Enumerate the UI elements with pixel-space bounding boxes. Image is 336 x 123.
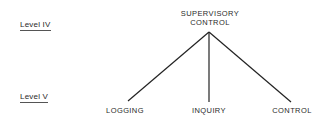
tree-connectors <box>0 0 336 123</box>
child-node-logging: LOGGING <box>100 106 150 115</box>
connector-logging <box>128 32 209 101</box>
connector-control <box>209 32 291 102</box>
child-node-inquiry: INQUIRY <box>184 106 234 115</box>
child-node-control: CONTROL <box>264 106 320 115</box>
